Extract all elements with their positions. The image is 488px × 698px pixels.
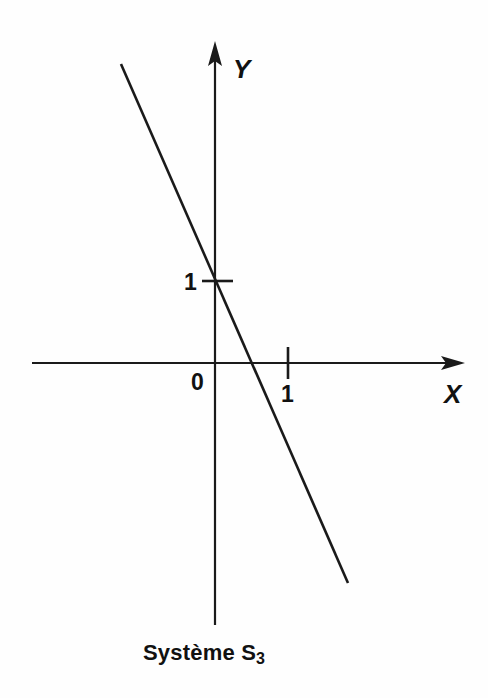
x-axis-label: X xyxy=(442,379,463,409)
origin-label: 0 xyxy=(191,369,204,395)
y-axis-label: Y xyxy=(233,54,253,84)
coordinate-plot: Y X 1 0 1 xyxy=(0,0,488,698)
line-s3 xyxy=(121,64,348,583)
figure-container: Y X 1 0 1 Système S3 xyxy=(0,0,488,698)
figure-caption-subscript: 3 xyxy=(256,650,265,667)
y-tick-label-1: 1 xyxy=(184,269,197,295)
figure-caption: Système S3 xyxy=(143,640,265,668)
figure-caption-text: Système S xyxy=(143,640,256,665)
x-tick-label-1: 1 xyxy=(281,381,294,407)
